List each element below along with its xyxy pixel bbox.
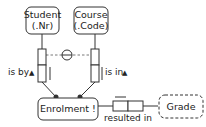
grade-name: Grade [167, 101, 196, 112]
role-box-course[interactable] [91, 49, 99, 82]
student-role-connector [42, 82, 56, 97]
course-refmode: (.Code) [74, 20, 109, 31]
arrow-up-icon: ▲ [122, 69, 128, 77]
role-box-grade[interactable] [113, 101, 143, 111]
external-uniqueness-constraint-icon[interactable] [62, 50, 72, 60]
entity-grade[interactable]: Grade [159, 95, 203, 118]
course-role-connector [80, 82, 95, 97]
course-name: Course [74, 9, 107, 20]
role-box-student[interactable] [38, 49, 46, 82]
student-name: Student [24, 9, 62, 20]
reading-resulted-in: resulted in [104, 113, 152, 123]
entity-course[interactable]: Course (.Code) [74, 7, 109, 34]
reading-is-by: is by [8, 67, 30, 77]
reading-is-in: is in [105, 67, 123, 77]
enrolment-name: Enrolment ! [40, 103, 96, 114]
entity-student[interactable]: Student (.Nr) [24, 7, 62, 34]
orm-diagram: Student (.Nr) Course (.Code) is by ▲ is … [0, 0, 206, 127]
entity-enrolment[interactable]: Enrolment ! [38, 98, 98, 120]
student-refmode: (.Nr) [32, 20, 53, 31]
arrow-up-icon: ▲ [29, 69, 35, 77]
